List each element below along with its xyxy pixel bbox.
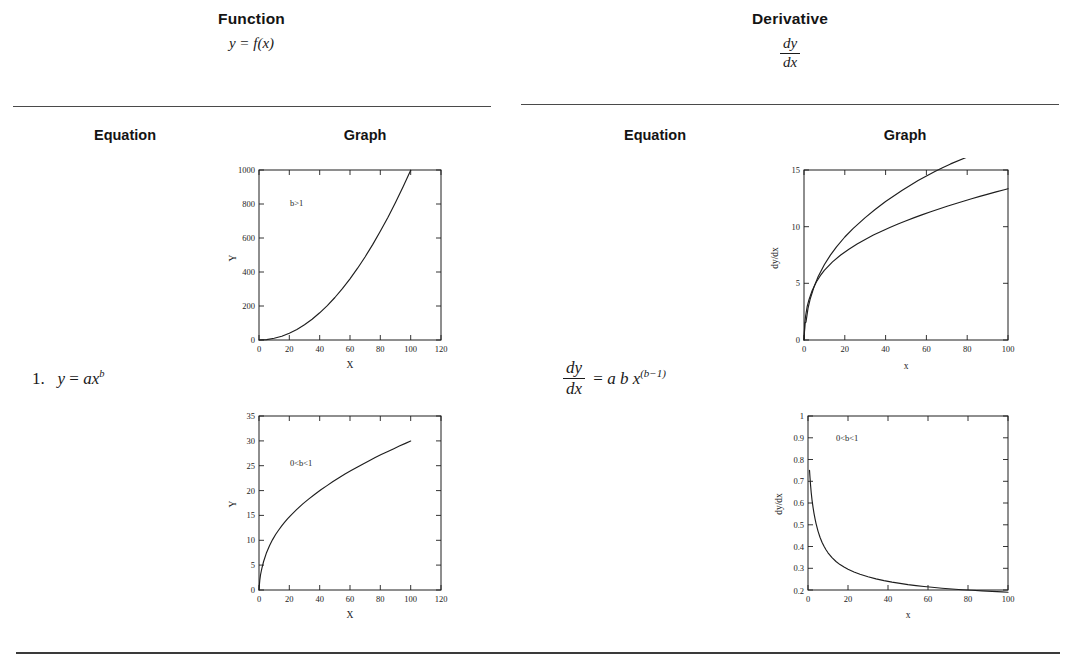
svg-text:0.7: 0.7	[793, 476, 804, 486]
derivative-subtitle-denominator: dx	[780, 53, 800, 71]
plot-frame	[804, 170, 1008, 340]
row-number: 1.	[32, 369, 45, 388]
derivative-equation-exponent: (b−1)	[640, 367, 666, 379]
svg-text:60: 60	[924, 594, 933, 604]
svg-text:0.9: 0.9	[793, 433, 804, 443]
svg-text:60: 60	[346, 344, 355, 354]
function-equation-equals: =	[69, 369, 79, 388]
svg-text:100: 100	[1002, 344, 1015, 354]
footer-rule	[16, 652, 1060, 654]
svg-text:1: 1	[800, 411, 804, 421]
svg-text:100: 100	[1002, 594, 1015, 604]
function-equation-exponent: b	[99, 368, 104, 379]
svg-text:40: 40	[315, 594, 324, 604]
chart-derivative-b-between-0-and-1: 0.2 0.3 0.4 0.5 0.6 0.7 0.8 0.9 1 0 20 4…	[762, 404, 1022, 630]
chart-function-b-gt-1: 0 200 400 600 800 1000 0 20 40 60 80 100…	[222, 158, 462, 380]
chart-function-b-gt-1-svg: 0 200 400 600 800 1000 0 20 40 60 80 100…	[222, 158, 462, 380]
chart-annotation: 0<b<1	[290, 458, 312, 468]
y-axis-title: dy/dx	[774, 493, 784, 515]
derivative-equation-numerator: dy	[563, 358, 585, 377]
derivative-column-header: Derivative dy dx	[520, 10, 1060, 71]
y-axis-title: dy/dx	[770, 247, 780, 269]
svg-text:0.3: 0.3	[793, 563, 804, 573]
x-axis-tick-labels: 0 20 40 60 80 100	[806, 594, 1015, 604]
document-page: Function y = f(x) Derivative dy dx Equat…	[0, 0, 1068, 672]
y-axis-title: Y	[228, 254, 238, 261]
function-equation-coefficient: ax	[83, 369, 99, 388]
y-axis-ticks	[259, 170, 441, 340]
derivative-equation-equals: =	[593, 369, 603, 388]
svg-text:0: 0	[257, 594, 261, 604]
y-axis-title: Y	[228, 500, 238, 507]
derivative-equation-rhs: a b x	[607, 369, 640, 388]
chart-derivative-b-gt-1-svg: 0 5 10 15 0 20 40 60 80 100 x dy/dx	[762, 158, 1022, 380]
svg-text:0: 0	[802, 344, 806, 354]
svg-text:120: 120	[435, 344, 448, 354]
derivative-subtitle-numerator: dy	[780, 35, 800, 52]
svg-text:100: 100	[404, 344, 417, 354]
x-axis-tick-labels: 0 20 40 60 80 100 120	[257, 344, 448, 354]
data-curve	[259, 441, 411, 590]
svg-text:20: 20	[841, 344, 850, 354]
svg-text:0.5: 0.5	[793, 520, 804, 530]
chart-function-b-between-0-and-1: 0 5 10 15 20 25 30 35 0 20 40 60 80 100 …	[222, 404, 462, 630]
function-equation-lhs: y	[58, 369, 66, 388]
svg-text:100: 100	[404, 594, 417, 604]
svg-text:0.6: 0.6	[793, 498, 804, 508]
chart-derivative-b-between-0-and-1-svg: 0.2 0.3 0.4 0.5 0.6 0.7 0.8 0.9 1 0 20 4…	[762, 404, 1022, 630]
svg-text:0: 0	[251, 335, 255, 345]
derivative-equation: dy dx = a b x(b−1)	[563, 358, 666, 398]
svg-text:40: 40	[315, 344, 324, 354]
x-axis-title: x	[904, 361, 909, 371]
svg-text:80: 80	[376, 344, 385, 354]
svg-text:120: 120	[435, 594, 448, 604]
derivative-column-subtitle: dy dx	[520, 35, 1060, 71]
x-axis-title: X	[347, 610, 354, 620]
svg-text:20: 20	[285, 344, 294, 354]
data-curve	[810, 470, 1009, 592]
svg-text:0: 0	[806, 594, 810, 604]
y-axis-ticks	[259, 416, 441, 590]
svg-text:40: 40	[881, 344, 890, 354]
svg-text:80: 80	[963, 344, 972, 354]
x-axis-tick-labels: 0 20 40 60 80 100 120	[257, 594, 448, 604]
svg-text:80: 80	[376, 594, 385, 604]
svg-text:35: 35	[247, 411, 256, 421]
svg-text:20: 20	[844, 594, 853, 604]
svg-text:60: 60	[922, 344, 931, 354]
svg-text:800: 800	[242, 199, 255, 209]
svg-text:10: 10	[792, 222, 801, 232]
function-column-header: Function y = f(x)	[13, 10, 490, 52]
header-rule-left	[13, 106, 491, 107]
svg-text:80: 80	[964, 594, 973, 604]
svg-text:25: 25	[247, 461, 256, 471]
svg-text:0: 0	[796, 335, 800, 345]
data-curve	[804, 158, 967, 340]
function-column-subtitle: y = f(x)	[13, 35, 490, 52]
svg-text:20: 20	[247, 486, 256, 496]
svg-text:0.2: 0.2	[793, 586, 804, 596]
derivative-equation-denominator: dx	[563, 378, 585, 398]
svg-text:600: 600	[242, 233, 255, 243]
x-axis-tick-labels: 0 20 40 60 80 100	[802, 344, 1015, 354]
x-axis-title: X	[347, 360, 354, 370]
y-axis-tick-labels: 0.2 0.3 0.4 0.5 0.6 0.7 0.8 0.9 1	[793, 411, 804, 596]
x-axis-title: x	[906, 610, 911, 620]
chart-annotation: b>1	[290, 198, 303, 208]
svg-text:1000: 1000	[238, 165, 255, 175]
plot-frame	[259, 416, 441, 590]
svg-text:0: 0	[257, 344, 261, 354]
svg-text:30: 30	[247, 436, 256, 446]
chart-derivative-b-gt-1: 0 5 10 15 0 20 40 60 80 100 x dy/dx	[762, 158, 1022, 380]
plot-frame	[259, 170, 441, 340]
svg-text:0.8: 0.8	[793, 455, 804, 465]
svg-text:5: 5	[251, 560, 255, 570]
data-curve	[259, 170, 411, 340]
svg-text:200: 200	[242, 301, 255, 311]
x-axis-ticks	[804, 170, 1008, 340]
function-equation: 1. y = axb	[32, 368, 104, 389]
chart-annotation: 0<b<1	[836, 433, 858, 443]
x-axis-ticks	[259, 416, 441, 590]
svg-text:10: 10	[247, 535, 256, 545]
sub-header-function-graph: Graph	[280, 127, 450, 143]
